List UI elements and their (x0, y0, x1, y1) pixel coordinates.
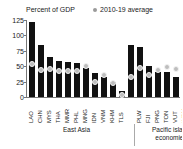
bar-slot[interactable] (37, 20, 44, 97)
bar-slot[interactable] (181, 20, 182, 97)
chart-figure: Percent of GDP 2010-19 average 025507510… (0, 0, 182, 149)
category-label: PHL (73, 112, 79, 123)
average-marker (47, 66, 53, 72)
y-tick-mark (24, 97, 26, 98)
average-marker (137, 65, 143, 71)
category-label: PLW (136, 111, 142, 123)
bar-group (126, 20, 182, 97)
bar-slot[interactable] (91, 20, 98, 97)
bar[interactable] (173, 77, 179, 97)
y-tick-label: 75 (16, 47, 24, 54)
average-marker (101, 72, 107, 78)
category-label: MYS (46, 110, 52, 123)
category-label: VNM (100, 110, 106, 123)
group-caption: East Asia (26, 124, 127, 146)
y-tick-label: 100 (12, 32, 24, 39)
bar[interactable] (137, 47, 143, 98)
bar-slot[interactable] (82, 20, 89, 97)
group-caption: Pacific islandeconomies (134, 124, 182, 146)
category-label: MMR (64, 109, 70, 123)
bar-slot[interactable] (118, 20, 125, 97)
bar-slot[interactable] (172, 20, 179, 97)
average-marker (83, 63, 89, 69)
bar-slot[interactable] (109, 20, 116, 97)
category-label: CHN (37, 110, 43, 123)
group-captions: East AsiaPacific islandeconomies (27, 124, 181, 148)
bar-slot[interactable] (127, 20, 134, 97)
legend-average-marker-icon (93, 8, 97, 12)
bar-slot[interactable] (73, 20, 80, 97)
average-marker (29, 61, 35, 67)
average-marker (38, 67, 44, 73)
average-marker (146, 72, 152, 78)
category-label: MNG (82, 109, 88, 123)
bar-slot[interactable] (154, 20, 161, 97)
average-marker (92, 79, 98, 85)
average-marker (128, 74, 134, 80)
bar[interactable] (182, 83, 183, 97)
category-label: PNG (154, 110, 160, 123)
bar[interactable] (83, 68, 89, 97)
bar[interactable] (92, 73, 98, 97)
bar-slot[interactable] (100, 20, 107, 97)
category-label: KHM (109, 110, 115, 123)
average-marker (110, 80, 116, 86)
y-tick-label: 125 (12, 17, 24, 24)
bar[interactable] (128, 45, 134, 97)
category-label: IDN (91, 113, 97, 123)
average-marker (65, 68, 71, 74)
category-label: THA (55, 111, 61, 123)
category-label: TLS (118, 112, 124, 123)
bar-slot[interactable] (28, 20, 35, 97)
bar[interactable] (56, 61, 62, 97)
category-label: TON (163, 111, 169, 123)
bar[interactable] (29, 22, 35, 97)
average-marker (74, 68, 80, 74)
bar-group (27, 20, 126, 97)
average-marker (164, 64, 170, 70)
category-label: VUT (172, 111, 178, 123)
average-marker (56, 68, 62, 74)
category-label: WSM (181, 109, 182, 123)
bar[interactable] (101, 77, 107, 97)
bar-slot[interactable] (46, 20, 53, 97)
bar-slot[interactable] (136, 20, 143, 97)
bar-slot[interactable] (145, 20, 152, 97)
bar[interactable] (155, 72, 161, 97)
y-tick-mark (24, 51, 26, 52)
chart-legend: 2010-19 average (93, 6, 153, 14)
bar[interactable] (47, 57, 53, 97)
x-axis-line (26, 97, 180, 98)
axis-title: Percent of GDP (26, 6, 75, 14)
bar-series (27, 20, 180, 97)
category-label: LAO (28, 111, 34, 123)
y-tick-label: 25 (16, 78, 24, 85)
average-marker (155, 67, 161, 73)
bar[interactable] (164, 72, 170, 97)
y-tick-mark (24, 82, 26, 83)
legend-average-label: 2010-19 average (100, 6, 153, 14)
average-marker (119, 92, 125, 98)
plot-area: 0255075100125 (26, 20, 180, 98)
y-tick-mark (24, 20, 26, 21)
bar-slot[interactable] (55, 20, 62, 97)
category-labels: LAOCHNMYSTHAMMRPHLMNGIDNVNMKHMTLSPLWFJIP… (27, 99, 181, 123)
category-label: FJI (145, 115, 151, 123)
bar[interactable] (146, 66, 152, 97)
y-tick-label: 50 (16, 63, 24, 70)
bar-slot[interactable] (163, 20, 170, 97)
y-tick-mark (24, 35, 26, 36)
average-marker (182, 80, 183, 86)
average-marker (173, 66, 179, 72)
y-tick-mark (24, 66, 26, 67)
bar-slot[interactable] (64, 20, 71, 97)
